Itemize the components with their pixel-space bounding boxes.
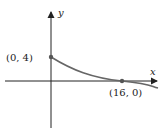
point-label-b: (16, 0) [109,87,142,98]
point-label-a: (0, 4) [6,52,33,63]
y-axis-label: y [57,7,64,18]
x-axis-label: x [150,66,156,77]
point-16-0 [120,79,124,83]
curve [51,57,158,88]
graph: y x (0, 4) (16, 0) [0,0,166,130]
point-0-4 [49,55,53,59]
